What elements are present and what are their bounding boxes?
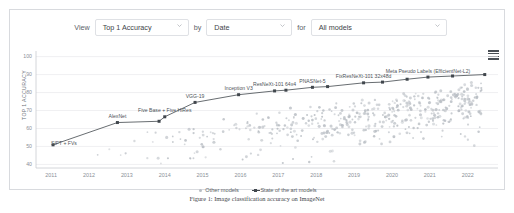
x-axis-tick: 2021 xyxy=(424,172,436,178)
x-axis-tick: 2020 xyxy=(386,172,398,178)
chart-controls: View Top 1 Accuracy by Date for All mode… xyxy=(10,15,506,39)
x-axis-tick: 2015 xyxy=(197,172,209,178)
y-axis-tick: 40 xyxy=(26,161,32,167)
x-axis-tick: 2014 xyxy=(159,172,171,178)
screenshot-root: View Top 1 Accuracy by Date for All mode… xyxy=(0,0,514,213)
sota-point-label: SIFT + FVs xyxy=(51,140,77,146)
metric-select-value: Top 1 Accuracy xyxy=(96,23,152,32)
sota-point[interactable] xyxy=(451,75,454,78)
x-axis-tick: 2019 xyxy=(348,172,360,178)
chevron-down-icon xyxy=(177,24,182,29)
legend-dot-icon xyxy=(199,189,202,192)
y-axis-tick: 60 xyxy=(26,125,32,131)
x-axis-tick: 2012 xyxy=(83,172,95,178)
sota-point[interactable] xyxy=(116,121,119,124)
sota-point[interactable] xyxy=(362,81,365,84)
x-axis-tick: 2013 xyxy=(121,172,133,178)
chart-card: View Top 1 Accuracy by Date for All mode… xyxy=(9,9,505,190)
y-axis-tick: 50 xyxy=(26,143,32,149)
sota-point-label: Meta Pseudo Labels (EfficientNet-L2) xyxy=(386,68,471,74)
by-label: by xyxy=(189,23,207,32)
chevron-down-icon xyxy=(280,24,285,29)
sota-point-label: PNASNet-5 xyxy=(299,78,325,84)
chart-svg: 1009080706050402011201220132014201520162… xyxy=(10,40,506,190)
sota-point[interactable] xyxy=(194,101,197,104)
sota-point-label: VGG-19 xyxy=(186,93,205,99)
x-axis-tick: 2018 xyxy=(310,172,322,178)
sota-point[interactable] xyxy=(273,89,276,92)
sota-point[interactable] xyxy=(284,89,287,92)
y-axis-tick: 70 xyxy=(26,107,32,113)
sota-point[interactable] xyxy=(381,81,384,84)
y-axis-tick: 90 xyxy=(26,71,32,77)
for-label: for xyxy=(292,23,310,32)
other-models-cloud xyxy=(97,81,483,164)
sota-point-label: ResNeXt-101 64x4 xyxy=(253,81,296,87)
models-filter-value: All models xyxy=(312,23,352,32)
groupby-select[interactable]: Date xyxy=(206,19,292,36)
groupby-select-value: Date xyxy=(207,23,229,32)
sota-point[interactable] xyxy=(311,86,314,89)
x-axis-tick: 2017 xyxy=(272,172,284,178)
legend-line-marker-icon xyxy=(252,189,258,192)
sota-point[interactable] xyxy=(406,78,409,81)
sota-point-label: Five Base + Five HiRes xyxy=(138,107,192,113)
sota-point[interactable] xyxy=(426,76,429,79)
y-axis-tick: 80 xyxy=(26,89,32,95)
sota-point-label: AlexNet xyxy=(108,113,126,119)
x-axis-tick: 2022 xyxy=(462,172,474,178)
x-axis-tick: 2016 xyxy=(234,172,246,178)
x-axis-tick: 2011 xyxy=(45,172,57,178)
y-axis-tick: 100 xyxy=(23,53,32,59)
sota-point-label: FixResNeXt-101 32x48d xyxy=(336,73,392,79)
figure-caption-text: Figure 1: Image classification accuracy … xyxy=(189,195,324,202)
sota-point-label: Inception V3 xyxy=(224,85,252,91)
chart-plot-area: TOP 1 ACCURACY 1009080706050402011201220… xyxy=(10,40,506,190)
sota-point[interactable] xyxy=(483,73,486,76)
metric-select[interactable]: Top 1 Accuracy xyxy=(95,19,189,36)
figure-caption: Figure 1: Image classification accuracy … xyxy=(0,193,514,213)
view-label: View xyxy=(69,23,94,32)
models-filter-select[interactable]: All models xyxy=(311,19,447,36)
sota-point[interactable] xyxy=(163,115,166,118)
sota-point[interactable] xyxy=(326,85,329,88)
sota-point[interactable] xyxy=(158,120,161,123)
sota-point[interactable] xyxy=(237,93,240,96)
chevron-down-icon xyxy=(435,24,440,29)
